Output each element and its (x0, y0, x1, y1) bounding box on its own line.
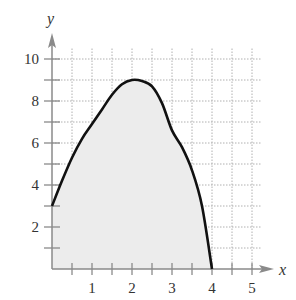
x-tick-label: 5 (248, 280, 256, 296)
y-tick-label: 6 (32, 135, 40, 151)
x-tick-label: 2 (128, 280, 136, 296)
y-tick-label: 2 (32, 219, 40, 235)
y-tick-label: 10 (24, 51, 39, 67)
y-axis-label: y (45, 10, 55, 28)
y-tick-label: 4 (32, 177, 40, 193)
chart: 12345246810 x y (0, 0, 296, 300)
y-tick-label: 8 (32, 93, 40, 109)
x-tick-label: 1 (88, 280, 96, 296)
x-tick-label: 4 (208, 280, 216, 296)
area-under-curve (52, 80, 212, 269)
x-axis-label: x (278, 261, 286, 278)
x-tick-label: 3 (168, 280, 176, 296)
